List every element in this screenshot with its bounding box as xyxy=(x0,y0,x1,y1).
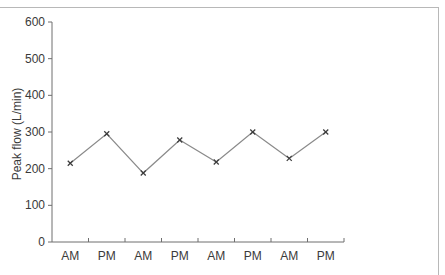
peak-flow-chart: Peak flow (L/min) 0100200300400500600 AM… xyxy=(0,0,445,275)
y-tick-labels: 0100200300400500600 xyxy=(25,15,45,249)
x-marker-icon xyxy=(104,131,109,136)
y-tick-label: 400 xyxy=(25,88,45,102)
y-tick-label: 300 xyxy=(25,125,45,139)
y-tick-label: 0 xyxy=(38,235,45,249)
x-tick-label: PM xyxy=(317,249,335,263)
x-marker-icon xyxy=(141,171,146,176)
axes xyxy=(48,22,344,242)
y-tick-label: 600 xyxy=(25,15,45,29)
y-axis-title: Peak flow (L/min) xyxy=(10,88,24,181)
y-tick-label: 500 xyxy=(25,52,45,66)
x-marker-icon xyxy=(323,130,328,135)
x-tick-label: PM xyxy=(98,249,116,263)
y-tick-label: 200 xyxy=(25,162,45,176)
data-point-markers xyxy=(68,130,329,176)
x-tick-labels: AMPMAMPMAMPMAMPM xyxy=(61,249,335,263)
x-marker-icon xyxy=(68,161,73,166)
x-tick-label: PM xyxy=(244,249,262,263)
x-marker-icon xyxy=(177,138,182,143)
peak-flow-line xyxy=(70,132,326,173)
x-tick-label: AM xyxy=(280,249,298,263)
x-tick-label: AM xyxy=(134,249,152,263)
x-marker-icon xyxy=(214,160,219,165)
x-marker-icon xyxy=(250,130,255,135)
x-tick-label: AM xyxy=(207,249,225,263)
y-tick-label: 100 xyxy=(25,198,45,212)
x-tick-label: AM xyxy=(61,249,79,263)
x-tick-label: PM xyxy=(171,249,189,263)
x-marker-icon xyxy=(287,156,292,161)
